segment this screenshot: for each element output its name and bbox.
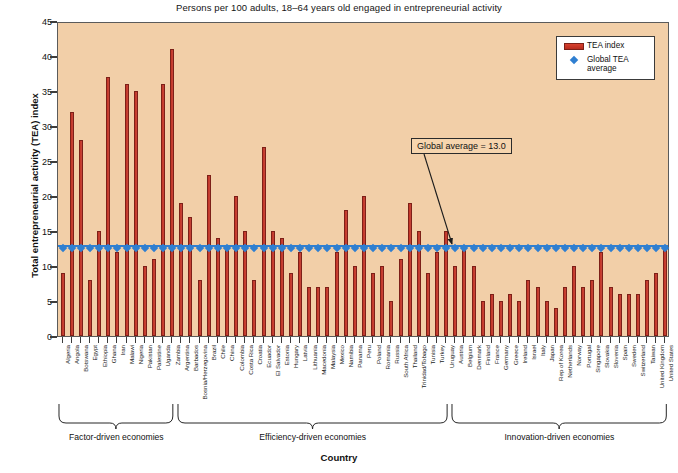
x-tick-label: Turkey — [438, 345, 445, 363]
x-tick-mark — [637, 337, 638, 343]
x-tick-mark — [208, 337, 209, 343]
x-axis-title: Country — [0, 452, 678, 463]
group-brace-icon — [57, 404, 175, 430]
x-tick-mark — [62, 337, 63, 343]
x-tick-mark — [454, 337, 455, 343]
x-tick-label: Pakistan — [146, 345, 153, 368]
global-average-marker — [661, 244, 669, 252]
x-tick-mark — [162, 337, 163, 343]
y-tick-mark — [50, 196, 57, 197]
x-tick-label: Angola — [73, 345, 80, 364]
x-tick-label: Palestine — [155, 345, 162, 370]
x-tick-label: Trinidad/Tobago — [420, 345, 427, 388]
x-tick-label: Malaysia — [329, 345, 336, 369]
y-tick-label: 35 — [12, 87, 52, 97]
x-tick-label: Belgium — [466, 345, 473, 367]
group-label: Factor-driven economies — [6, 432, 226, 442]
x-tick-label: Ethiopia — [101, 345, 108, 367]
y-tick-label: 25 — [12, 157, 52, 167]
y-tick-label: 0 — [12, 332, 52, 342]
x-tick-label: Thailand — [411, 345, 418, 368]
x-tick-label: Germany — [502, 345, 509, 370]
y-tick-mark — [50, 301, 57, 302]
x-tick-label: China — [228, 345, 235, 361]
x-tick-label: Peru — [365, 345, 372, 358]
legend-item-global-tea-average[interactable]: Global TEA average — [561, 55, 650, 74]
x-tick-label: Greece — [512, 345, 519, 365]
x-tick-label: Tunisia — [429, 345, 436, 364]
x-tick-label: Bosnia/Herzegovina — [201, 345, 208, 399]
x-tick-mark — [281, 337, 282, 343]
x-tick-label: Spain — [621, 345, 628, 361]
x-tick-mark — [354, 337, 355, 343]
x-tick-label: Barbados — [192, 345, 199, 371]
x-tick-mark — [144, 337, 145, 343]
group-brace-icon — [450, 404, 668, 430]
x-tick-mark — [390, 337, 391, 343]
x-tick-mark — [610, 337, 611, 343]
x-tick-label: Macedonia — [320, 345, 327, 375]
x-tick-mark — [537, 337, 538, 343]
x-tick-mark — [153, 337, 154, 343]
x-tick-mark — [80, 337, 81, 343]
y-tick-mark — [50, 266, 57, 267]
x-tick-label: Russia — [393, 345, 400, 364]
x-tick-mark — [564, 337, 565, 343]
legend-diamond-swatch-icon — [561, 55, 587, 63]
x-tick-label: Norway — [575, 345, 582, 366]
x-tick-mark — [363, 337, 364, 343]
x-tick-mark — [89, 337, 90, 343]
x-tick-mark — [71, 337, 72, 343]
x-tick-mark — [509, 337, 510, 343]
x-tick-label: Switzerland — [639, 345, 646, 376]
x-tick-label: Japan — [548, 345, 555, 362]
x-tick-mark — [427, 337, 428, 343]
x-tick-label: Uganda — [164, 345, 171, 366]
legend-label-global-tea-average: Global TEA average — [587, 55, 650, 74]
y-tick-mark — [50, 231, 57, 232]
legend-bar-swatch-icon — [561, 41, 587, 50]
x-tick-mark — [290, 337, 291, 343]
x-tick-label: Latvia — [301, 345, 308, 361]
x-tick-label: Argentina — [183, 345, 190, 371]
y-tick-label: 40 — [12, 52, 52, 62]
chart-title: Persons per 100 adults, 18–64 years old … — [0, 2, 678, 13]
x-tick-mark — [345, 337, 346, 343]
x-tick-label: Italy — [539, 345, 546, 356]
x-tick-mark — [418, 337, 419, 343]
x-tick-mark — [235, 337, 236, 343]
x-tick-label: Panama — [356, 345, 363, 368]
annotation-global-average: Global average = 13.0 — [411, 138, 512, 154]
x-tick-mark — [336, 337, 337, 343]
x-tick-label: Egypt — [91, 345, 98, 361]
x-tick-mark — [308, 337, 309, 343]
x-tick-label: Singapore — [594, 345, 601, 373]
x-tick-mark — [180, 337, 181, 343]
x-tick-label: Brazil — [210, 345, 217, 360]
x-tick-mark — [126, 337, 127, 343]
x-tick-mark — [299, 337, 300, 343]
x-tick-label: Malawi — [128, 345, 135, 364]
legend-item-tea-index[interactable]: TEA index — [561, 41, 650, 51]
x-tick-mark — [253, 337, 254, 343]
x-tick-mark — [546, 337, 547, 343]
x-tick-mark — [463, 337, 464, 343]
x-tick-mark — [582, 337, 583, 343]
y-tick-mark — [50, 161, 57, 162]
x-tick-label: Slovakia — [603, 345, 610, 368]
x-tick-mark — [445, 337, 446, 343]
x-tick-mark — [619, 337, 620, 343]
x-tick-label: El Salvador — [274, 345, 281, 376]
x-tick-label: United States — [667, 345, 674, 382]
x-tick-label: Romania — [384, 345, 391, 369]
x-tick-mark — [244, 337, 245, 343]
x-tick-mark — [518, 337, 519, 343]
x-tick-mark — [98, 337, 99, 343]
x-tick-label: Portugal — [585, 345, 592, 368]
x-tick-label: Sweden — [630, 345, 637, 367]
y-tick-mark — [50, 91, 57, 92]
x-tick-label: Zambia — [174, 345, 181, 365]
x-tick-mark — [491, 337, 492, 343]
x-tick-label: Colombia — [238, 345, 245, 371]
x-tick-mark — [272, 337, 273, 343]
